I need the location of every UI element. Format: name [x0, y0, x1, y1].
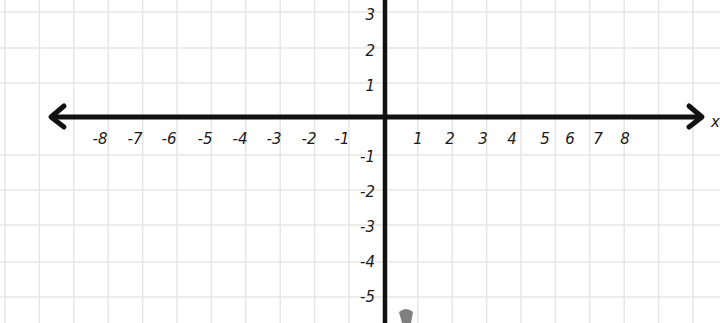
x-axis-label: x	[710, 113, 720, 131]
x-tick-label: 4	[507, 130, 517, 148]
x-tick-label: -1	[335, 130, 350, 148]
y-tick-label: -4	[360, 253, 375, 271]
x-tick-label: -4	[233, 130, 248, 148]
x-tick-label: 2	[445, 130, 455, 148]
x-tick-label: -3	[267, 130, 282, 148]
x-tick-label: -8	[93, 130, 108, 148]
y-tick-label: 1	[365, 77, 375, 95]
x-tick-label: 3	[478, 130, 488, 148]
y-tick-label: 3	[365, 6, 375, 24]
x-tick-labels: -8-7-6-5-4-3-2-112345678	[93, 130, 630, 148]
y-tick-label: -5	[360, 288, 375, 306]
x-tick-label: 6	[565, 130, 575, 148]
y-tick-label: -2	[360, 183, 375, 201]
x-tick-label: -2	[302, 130, 317, 148]
coordinate-plane: x -8-7-6-5-4-3-2-112345678 321-1-2-3-4-5	[0, 0, 720, 323]
x-tick-label: -7	[128, 130, 143, 148]
x-tick-label: 7	[593, 130, 603, 148]
x-tick-label: 1	[413, 130, 423, 148]
x-tick-label: -5	[198, 130, 213, 148]
y-tick-label: 2	[365, 42, 375, 60]
y-tick-labels: 321-1-2-3-4-5	[360, 6, 375, 306]
x-tick-label: 5	[540, 130, 550, 148]
y-tick-label: -1	[360, 148, 375, 166]
x-tick-label: 8	[620, 130, 630, 148]
x-tick-label: -6	[162, 130, 177, 148]
partial-marker-icon	[399, 309, 413, 323]
y-tick-label: -3	[360, 218, 375, 236]
